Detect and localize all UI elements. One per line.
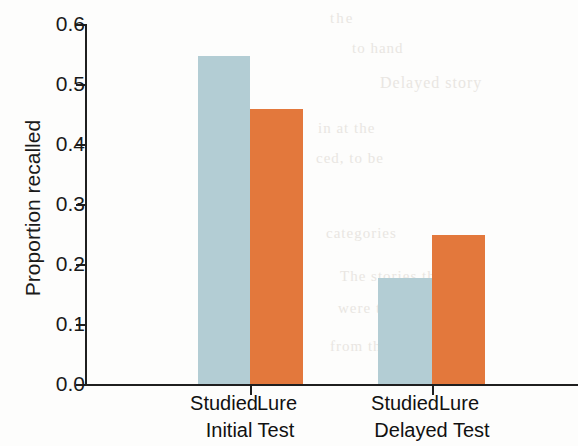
y-axis-tick-label: 0.2	[23, 252, 85, 276]
y-axis-tick-label: 0.6	[23, 12, 85, 36]
x-axis-group-label: Delayed Test	[342, 419, 522, 442]
y-axis-tick-label: 0.4	[23, 132, 85, 156]
bleed-through-artifact: to hand	[352, 40, 404, 57]
y-axis-tick-label: 0.5	[23, 72, 85, 96]
y-axis-line	[85, 24, 87, 386]
bar-delayed-test-lure	[432, 235, 485, 384]
y-axis-tick-label: 0.0	[23, 372, 85, 396]
x-axis-line	[85, 384, 578, 386]
bar-chart-figure: the to hand Delayed story in at the ced,…	[0, 0, 578, 446]
bleed-through-artifact: Delayed story	[380, 74, 482, 92]
bleed-through-artifact: the	[330, 10, 354, 27]
x-axis-group-label: Initial Test	[160, 419, 340, 442]
bleed-through-artifact: in at the	[318, 120, 375, 137]
y-axis-tick-label: 0.3	[23, 192, 85, 216]
x-axis-category-label: Lure	[399, 392, 519, 415]
bleed-through-artifact: categories	[326, 225, 397, 242]
bleed-through-artifact: ced, to be	[316, 150, 384, 167]
bar-initial-test-lure	[250, 109, 303, 384]
bar-delayed-test-studied	[378, 278, 432, 384]
x-axis-category-label: Lure	[217, 392, 337, 415]
bar-initial-test-studied	[198, 56, 250, 384]
y-axis-tick-label: 0.1	[23, 312, 85, 336]
